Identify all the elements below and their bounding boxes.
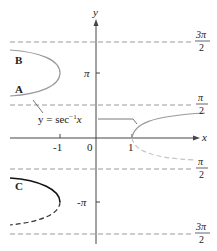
tick-label-neg1: -1 bbox=[53, 141, 62, 153]
x-axis-label: x bbox=[201, 131, 207, 143]
curve-label-B: B bbox=[15, 54, 23, 66]
svg-text:3π: 3π bbox=[195, 29, 207, 40]
asymptote-label-top: 3π 2 bbox=[195, 29, 210, 53]
svg-text:π: π bbox=[198, 156, 204, 167]
function-label: y = sec−1x bbox=[38, 113, 82, 125]
curve-right-lower bbox=[132, 138, 195, 160]
asymptote-label-bottom: 3π 2 bbox=[195, 221, 210, 245]
svg-text:2: 2 bbox=[199, 234, 204, 245]
arcsec-graph: y x -1 0 1 π -π 3π 2 π 2 π 2 3π 2 B A C … bbox=[0, 0, 217, 251]
function-label-leader-right bbox=[98, 119, 137, 124]
y-axis-label: y bbox=[92, 6, 98, 18]
curve-left-lower-C-dashed bbox=[10, 202, 60, 225]
svg-text:2: 2 bbox=[199, 105, 204, 116]
tick-label-0: 0 bbox=[87, 141, 93, 153]
svg-text:π: π bbox=[198, 92, 204, 103]
tick-label-pi: π bbox=[84, 67, 90, 79]
tick-label-1: 1 bbox=[128, 141, 134, 153]
svg-text:3π: 3π bbox=[195, 221, 207, 232]
tick-label-neg-pi: -π bbox=[77, 196, 87, 208]
asymptote-label-pi-2: π 2 bbox=[196, 92, 208, 116]
y-axis-arrow-icon bbox=[94, 19, 99, 26]
curve-right-upper bbox=[132, 113, 205, 138]
x-axis-arrow-icon bbox=[193, 136, 200, 141]
svg-text:2: 2 bbox=[199, 169, 204, 180]
svg-text:2: 2 bbox=[199, 42, 204, 53]
function-label-leader bbox=[33, 100, 43, 113]
curve-label-A: A bbox=[15, 83, 23, 95]
asymptote-label-neg-pi-2: π 2 bbox=[196, 156, 208, 180]
curve-label-C: C bbox=[15, 180, 23, 192]
